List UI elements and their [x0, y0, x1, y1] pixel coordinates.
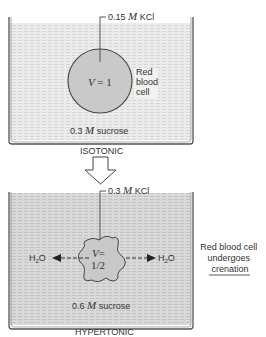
- cell-volume-bottom-value: 1/2: [91, 259, 105, 271]
- transition-arrow-icon: [85, 157, 116, 184]
- condition-isotonic: ISOTONIC: [80, 146, 124, 156]
- condition-hypertonic: HYPERTONIC: [75, 327, 134, 337]
- kcl-label-top: 0.15 M KCl: [108, 10, 154, 22]
- kcl-label-bottom: 0.3 M KCl: [108, 184, 149, 196]
- osmosis-diagram: 0.15 M KCl V = 1 Red blood cell 0.3 M su…: [0, 0, 266, 337]
- solution-label-top: 0.3 M sucrose: [70, 124, 128, 136]
- crenation-note: Red blood cell undergoes crenation: [200, 242, 260, 274]
- cell-volume-top: V = 1: [88, 76, 112, 88]
- cell-volume-bottom-var: V=: [92, 247, 105, 259]
- solution-label-bottom: 0.6 M sucrose: [72, 299, 130, 311]
